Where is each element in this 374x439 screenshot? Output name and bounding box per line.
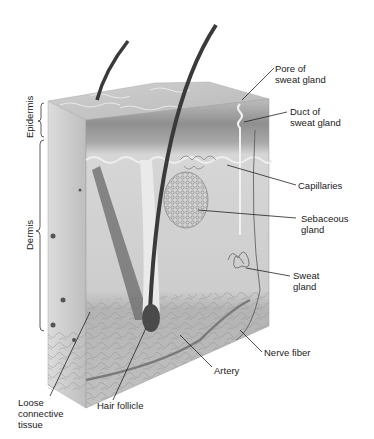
layer-label-epidermis: Epidermis bbox=[24, 96, 35, 138]
sebaceous-gland-shape bbox=[164, 172, 208, 228]
label-pore-of-sweat-gland: Pore of sweat gland bbox=[275, 63, 326, 85]
label-sweat-gland: Sweat gland bbox=[293, 270, 319, 292]
label-duct-of-sweat-gland: Duct of sweat gland bbox=[290, 106, 341, 128]
label-nerve-fiber: Nerve fiber bbox=[264, 347, 310, 358]
epidermis-brace bbox=[38, 103, 44, 137]
label-hair-follicle: Hair follicle bbox=[97, 400, 143, 411]
hair-bulb bbox=[142, 304, 160, 332]
label-sebaceous-gland: Sebaceous gland bbox=[301, 213, 349, 235]
skin-diagram: Epidermis Dermis Pore of sweat gland Duc… bbox=[0, 0, 374, 439]
hypodermis-layer bbox=[86, 290, 269, 408]
label-loose-connective-tissue: Loose connective tissue bbox=[18, 397, 63, 430]
dermis-brace bbox=[36, 140, 44, 331]
layer-label-dermis: Dermis bbox=[24, 220, 35, 250]
label-artery: Artery bbox=[214, 365, 239, 376]
label-capillaries: Capillaries bbox=[298, 180, 342, 191]
